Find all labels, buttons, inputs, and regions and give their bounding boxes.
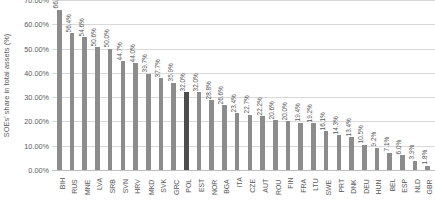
x-tick-slot: GBR [421,170,434,214]
bar[interactable]: 35.9% [171,83,176,170]
bar-value-label: 44.0% [129,44,135,62]
bar-slot: 22.2% [256,0,269,170]
bar-series: 66.0%56.4%54.6%50.6%50.0%44.7%44.0%39.7%… [52,0,435,170]
bar-value-label: 19.4% [294,104,300,122]
x-tick-slot: POL [180,170,193,214]
x-tick-slot: GRC [167,170,180,214]
bar-slot: 13.4% [345,0,358,170]
bar[interactable]: 22.7% [248,115,253,170]
bar[interactable]: 19.4% [298,123,303,170]
x-tick-slot: ESP [396,170,409,214]
bar[interactable]: 20.0% [286,121,291,170]
bar-value-label: 22.7% [243,96,249,114]
y-axis-title: SOEs' share in total assets (%) [0,0,14,170]
bar[interactable]: 28.8% [209,100,214,170]
bar-value-label: 28.8% [205,81,211,99]
bar[interactable]: 44.7% [121,61,126,170]
bar-slot: 56.4% [66,0,79,170]
bar-value-label: 20.0% [282,102,288,120]
bar-slot: 19.4% [294,0,307,170]
y-tick-label: 10.00% [24,141,49,150]
x-tick-slot: MNE [78,170,91,214]
x-tick-slot: ITA [231,170,244,214]
bar-value-label: 6.0% [396,140,402,155]
bar-value-label: 23.4% [231,94,237,112]
x-tick-slot: FRA [294,170,307,214]
bar[interactable]: 20.6% [273,120,278,170]
bar-value-label: 7.1% [383,137,389,152]
bar-value-label: 1.8% [421,150,427,165]
bar-value-label: 19.2% [307,104,313,122]
bar-value-label: 16.1% [320,112,326,130]
x-tick-slot: FIN [282,170,295,214]
plot-area: 66.0%56.4%54.6%50.6%50.0%44.7%44.0%39.7%… [52,0,435,170]
bar-value-label: 54.6% [78,18,84,36]
bar[interactable]: 50.0% [108,49,113,170]
bar-slot: 1.8% [421,0,434,170]
bar[interactable]: 56.4% [70,33,75,170]
bar-value-label: 13.4% [345,118,351,136]
bar[interactable]: 9.2% [375,148,380,170]
bar-slot: 39.7% [142,0,155,170]
bar-slot: 16.1% [320,0,333,170]
bar-slot: 3.9% [409,0,422,170]
bar[interactable]: 44.0% [133,63,138,170]
bar[interactable]: 6.0% [400,155,405,170]
x-tick-slot: MKD [142,170,155,214]
x-tick-slot: LTU [307,170,320,214]
bar[interactable]: 66.0% [57,10,62,170]
x-tick-slot: SVN [117,170,130,214]
bar-value-label: 39.7% [142,54,148,72]
x-tick-slot: SWE [320,170,333,214]
bar[interactable]: 3.9% [413,161,418,170]
bar[interactable]: 10.5% [362,145,367,171]
bar[interactable]: 19.2% [311,123,316,170]
bar-slot: 19.2% [307,0,320,170]
bar[interactable]: 23.4% [235,113,240,170]
bar-value-label: 50.6% [91,28,97,46]
bar[interactable]: 37.7% [159,78,164,170]
bar[interactable]: 39.7% [146,74,151,170]
bar[interactable]: 13.4% [349,137,354,170]
bar-slot: 28.8% [205,0,218,170]
bar[interactable]: 54.6% [82,37,87,170]
bar-value-label: 22.2% [256,97,262,115]
bar-slot: 37.7% [155,0,168,170]
bar[interactable]: 16.1% [324,131,329,170]
bar[interactable]: 22.2% [260,116,265,170]
y-tick-label: 60.00% [24,20,49,29]
x-tick-slot: NLD [409,170,422,214]
x-tick-label: GBR [428,179,435,194]
x-tick-slot: ROU [269,170,282,214]
bar-value-label: 32.0% [180,73,186,91]
y-tick-label: 50.00% [24,44,49,53]
bar[interactable]: 32.0% [197,92,202,170]
bar-value-label: 37.7% [155,59,161,77]
x-tick-slot: DNK [345,170,358,214]
bar-value-label: 44.7% [116,42,122,60]
bar[interactable]: 14.3% [337,135,342,170]
x-tick-slot: RUS [66,170,79,214]
bar-slot: 50.6% [91,0,104,170]
bar-value-label: 35.9% [167,64,173,82]
bar-slot: 20.6% [269,0,282,170]
bar-value-label: 3.9% [409,145,415,160]
bar-slot: 26.6% [218,0,231,170]
bar[interactable]: 7.1% [387,153,392,170]
y-tick-label: 40.00% [24,68,49,77]
bar-value-label: 56.4% [66,14,72,32]
y-axis-tick-labels: 70.00%60.00%50.00%40.00%30.00%20.00%10.0… [14,0,52,178]
bar[interactable]: 32.0% [184,92,189,170]
bar[interactable]: 26.6% [222,105,227,170]
bar-slot: 44.7% [117,0,130,170]
x-tick-slot: HRV [129,170,142,214]
bar-slot: 32.0% [193,0,206,170]
bar-value-label: 14.3% [332,116,338,134]
x-tick-slot: PRT [332,170,345,214]
bar-value-label: 66.0% [53,0,59,9]
x-tick-slot: EST [193,170,206,214]
bar-slot: 14.3% [332,0,345,170]
bar[interactable]: 50.6% [95,47,100,170]
y-tick-label: 30.00% [24,93,49,102]
bar-slot: 22.7% [244,0,257,170]
